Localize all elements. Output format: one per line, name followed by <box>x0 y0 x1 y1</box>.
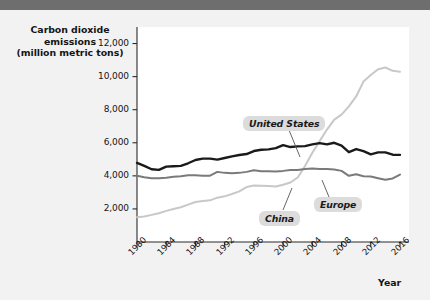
leader-china <box>283 188 292 210</box>
y-axis-tick-label: 2,000 <box>81 203 129 213</box>
x-axis-title: Year <box>378 277 401 288</box>
series-line-europe <box>137 169 400 180</box>
series-line-united-states <box>137 143 400 170</box>
y-axis-tick-label: 10,000 <box>81 71 129 81</box>
y-axis-tick-label: 6,000 <box>81 137 129 147</box>
figure-container: Growth Carbon dioxide emissions (million… <box>0 0 430 300</box>
series-line-china <box>137 68 400 218</box>
leader-united-states <box>289 130 300 157</box>
series-callout-china: China <box>259 211 300 226</box>
y-axis-tick-label: 4,000 <box>81 170 129 180</box>
series-callout-united-states: United States <box>243 116 325 131</box>
series-callout-europe: Europe <box>314 197 362 212</box>
y-axis-tick-label: 12,000 <box>81 38 129 48</box>
leader-europe <box>322 180 329 197</box>
series-lines-layer <box>137 68 400 218</box>
y-axis-tick-label: 8,000 <box>81 104 129 114</box>
